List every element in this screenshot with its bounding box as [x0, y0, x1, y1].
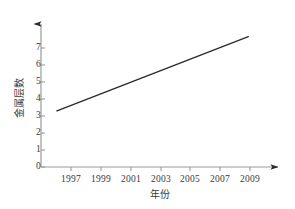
x-tick-label-2007: 2007: [210, 175, 230, 185]
y-tick-label-3: 3: [36, 111, 41, 121]
y-tick-label-6: 6: [36, 60, 41, 70]
x-tick-label-1997: 1997: [61, 175, 81, 185]
line-chart: 0 1 2 3 4 5 6 7 1997 1999 2001 2003 2005…: [0, 0, 295, 209]
y-tick-label-1: 1: [36, 145, 41, 155]
y-tick-label-4: 4: [36, 94, 41, 104]
x-tick-label-2005: 2005: [180, 175, 200, 185]
y-tick-label-7: 7: [36, 43, 41, 53]
y-tick-label-0: 0: [36, 162, 41, 172]
x-axis-label: 年份: [150, 190, 170, 200]
y-tick-label-5: 5: [36, 77, 41, 87]
x-tick-label-2003: 2003: [151, 175, 171, 185]
x-tick-label-1999: 1999: [91, 175, 111, 185]
x-tick-label-2009: 2009: [240, 175, 260, 185]
x-tick-label-2001: 2001: [121, 175, 141, 185]
y-tick-label-2: 2: [36, 128, 41, 138]
data-series-line: [57, 37, 248, 111]
y-axis-label: 金属层数: [15, 78, 25, 118]
